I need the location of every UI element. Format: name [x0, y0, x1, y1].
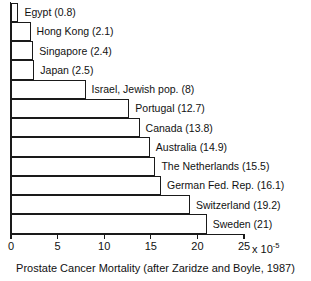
figure-caption: Prostate Cancer Mortality (after Zaridze… [0, 262, 311, 275]
bar-row: Egypt (0.8) [0, 3, 311, 22]
bar-label: The Netherlands (15.5) [161, 161, 269, 172]
bar-row: Singapore (2.4) [0, 41, 311, 60]
bar-row: Hong Kong (2.1) [0, 22, 311, 41]
bar-row: Israel, Jewish pop. (8) [0, 80, 311, 99]
y-axis-line [10, 2, 11, 235]
x-axis-line [10, 234, 244, 235]
bar-label: Japan (2.5) [40, 64, 93, 75]
bar-label: Australia (14.9) [156, 141, 227, 152]
bar-row: Sweden (21) [0, 214, 311, 233]
bar-row: Switzerland (19.2) [0, 195, 311, 214]
bar-label: Hong Kong (2.1) [37, 26, 114, 37]
unit-mantissa: x 10 [252, 243, 273, 255]
x-tick [57, 234, 58, 239]
bar-the-netherlands [11, 157, 155, 176]
bar-israel-jewish-pop [11, 80, 86, 99]
bar-row: Japan (2.5) [0, 60, 311, 79]
x-tick [243, 234, 244, 239]
axis-unit-label: x 10-5 [252, 240, 279, 255]
x-tick-label: 15 [145, 240, 157, 252]
bar-egypt [11, 3, 18, 22]
bar-row: Canada (13.8) [0, 118, 311, 137]
bar-row: Australia (14.9) [0, 137, 311, 156]
bar-hong-kong [11, 22, 31, 41]
bar-portugal [11, 99, 129, 118]
bar-label: Sweden (21) [213, 218, 273, 229]
prostate-cancer-mortality-bar-chart: Egypt (0.8)Hong Kong (2.1)Singapore (2.4… [0, 0, 311, 281]
bar-row: Portugal (12.7) [0, 99, 311, 118]
bar-australia [11, 137, 150, 156]
bar-japan [11, 60, 34, 79]
bar-german-fed-rep [11, 176, 161, 195]
unit-exponent: -5 [273, 241, 280, 250]
bar-switzerland [11, 195, 190, 214]
bar-label: Egypt (0.8) [24, 7, 75, 18]
x-tick-label: 10 [98, 240, 110, 252]
bar-label: Portugal (12.7) [135, 103, 204, 114]
x-tick-label: 0 [8, 240, 14, 252]
x-tick-label: 25 [238, 240, 250, 252]
bar-label: Singapore (2.4) [39, 45, 111, 56]
x-tick [104, 234, 105, 239]
bar-label: Israel, Jewish pop. (8) [92, 84, 195, 95]
plot-area: Egypt (0.8)Hong Kong (2.1)Singapore (2.4… [0, 0, 311, 238]
x-tick-label: 20 [191, 240, 203, 252]
x-tick [150, 234, 151, 239]
x-tick [197, 234, 198, 239]
bar-label: German Fed. Rep. (16.1) [167, 180, 284, 191]
bar-row: German Fed. Rep. (16.1) [0, 176, 311, 195]
bar-label: Canada (13.8) [146, 122, 213, 133]
bar-row: The Netherlands (15.5) [0, 157, 311, 176]
x-tick-label: 5 [55, 240, 61, 252]
bar-canada [11, 118, 140, 137]
bar-singapore [11, 41, 33, 60]
bar-sweden [11, 214, 207, 233]
bar-label: Switzerland (19.2) [196, 199, 281, 210]
x-tick [10, 234, 11, 239]
